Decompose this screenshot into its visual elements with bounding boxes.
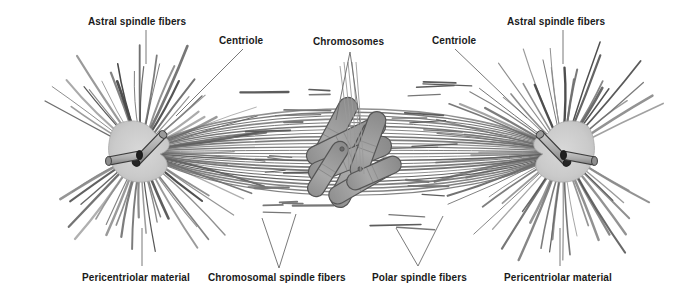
leader-centriole-left	[176, 49, 243, 116]
label-centriole-right: Centriole	[432, 35, 476, 47]
label-pericentriolar-material-left: Pericentriolar material	[82, 272, 190, 284]
label-astral-spindle-fibers-right: Astral spindle fibers	[507, 16, 605, 28]
spindle-diagram-figure: Astral spindle fibers Centriole Chromoso…	[0, 0, 700, 302]
label-astral-spindle-fibers-left: Astral spindle fibers	[88, 16, 186, 28]
leader-polar-fibers	[396, 216, 443, 266]
leader-centriole-right	[455, 49, 527, 118]
chromosome-cluster	[303, 94, 404, 211]
label-chromosomal-spindle-fibers: Chromosomal spindle fibers	[208, 272, 346, 284]
label-centriole-left: Centriole	[219, 35, 263, 47]
label-polar-spindle-fibers: Polar spindle fibers	[372, 272, 467, 284]
label-chromosomes: Chromosomes	[313, 36, 384, 48]
leader-chromosomal-fibers	[262, 214, 296, 268]
label-pericentriolar-material-right: Pericentriolar material	[504, 272, 612, 284]
